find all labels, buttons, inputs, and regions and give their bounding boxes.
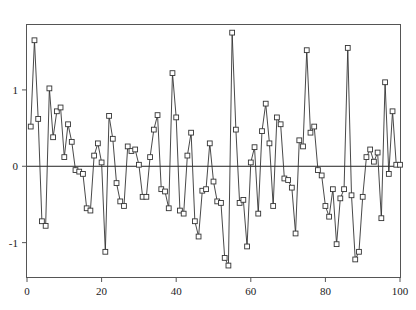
data-point-marker <box>207 141 212 146</box>
data-point-marker <box>148 155 153 160</box>
x-tick-label: 20 <box>96 285 108 297</box>
data-point-marker <box>371 159 376 164</box>
x-tick-label: 80 <box>320 285 332 297</box>
data-series-line <box>31 33 400 266</box>
data-point-marker <box>364 155 369 160</box>
data-point-marker <box>360 194 365 199</box>
data-point-marker <box>137 162 142 167</box>
data-point-marker <box>256 211 261 216</box>
y-tick-label: -1 <box>9 237 18 249</box>
y-tick-label: 1 <box>13 84 19 96</box>
plot-frame <box>27 25 401 278</box>
data-point-marker <box>43 223 48 228</box>
data-point-marker <box>185 153 190 158</box>
data-point-marker <box>144 194 149 199</box>
data-point-marker <box>166 206 171 211</box>
data-point-marker <box>95 141 100 146</box>
data-point-marker <box>28 124 33 129</box>
data-point-marker <box>196 234 201 239</box>
data-point-marker <box>349 193 354 198</box>
data-point-marker <box>107 113 112 118</box>
data-point-marker <box>308 130 313 135</box>
data-point-marker <box>181 211 186 216</box>
data-point-marker <box>122 204 127 209</box>
data-point-marker <box>353 257 358 262</box>
data-point-marker <box>51 135 56 140</box>
data-point-markers <box>28 30 402 268</box>
data-point-marker <box>155 113 160 118</box>
data-point-marker <box>62 155 67 160</box>
data-point-marker <box>230 30 235 35</box>
data-point-marker <box>330 187 335 192</box>
data-point-marker <box>248 160 253 165</box>
data-point-marker <box>342 187 347 192</box>
data-point-marker <box>263 101 268 106</box>
data-point-marker <box>297 138 302 143</box>
data-point-marker <box>368 147 373 152</box>
data-point-marker <box>375 150 380 155</box>
data-point-marker <box>233 127 238 132</box>
data-point-marker <box>204 187 209 192</box>
data-point-marker <box>110 136 115 141</box>
data-point-marker <box>151 127 156 132</box>
x-tick-label: 0 <box>24 285 30 297</box>
data-point-marker <box>241 197 246 202</box>
data-point-marker <box>304 48 309 53</box>
data-point-marker <box>260 129 265 134</box>
y-axis-tick-labels: 10-1 <box>9 84 19 249</box>
x-axis-tick-labels: 020406080100 <box>24 285 409 297</box>
data-point-marker <box>327 214 332 219</box>
data-point-marker <box>334 242 339 247</box>
data-point-marker <box>286 178 291 183</box>
data-point-marker <box>103 249 108 254</box>
data-point-marker <box>252 145 257 150</box>
data-point-marker <box>163 189 168 194</box>
data-point-marker <box>114 181 119 186</box>
data-point-marker <box>133 147 138 152</box>
x-tick-label: 40 <box>171 285 183 297</box>
data-point-marker <box>289 185 294 190</box>
data-point-marker <box>271 204 276 209</box>
data-point-marker <box>88 208 93 213</box>
data-point-marker <box>32 38 37 43</box>
data-point-marker <box>174 115 179 120</box>
y-tick-label: 0 <box>13 160 19 172</box>
data-point-marker <box>357 249 362 254</box>
data-point-marker <box>47 86 52 91</box>
data-point-marker <box>211 179 216 184</box>
chart-figure: 020406080100 10-1 <box>0 0 416 310</box>
x-tick-label: 60 <box>245 285 257 297</box>
data-point-marker <box>319 173 324 178</box>
data-point-marker <box>222 256 227 261</box>
data-point-marker <box>219 201 224 206</box>
data-point-marker <box>301 144 306 149</box>
data-point-marker <box>379 216 384 221</box>
data-point-marker <box>92 153 97 158</box>
data-point-marker <box>312 124 317 129</box>
data-point-marker <box>293 231 298 236</box>
data-point-marker <box>99 160 104 165</box>
data-point-marker <box>345 46 350 51</box>
data-point-marker <box>267 141 272 146</box>
data-point-marker <box>245 244 250 249</box>
data-point-marker <box>40 219 45 224</box>
data-point-marker <box>192 219 197 224</box>
data-point-marker <box>278 122 283 127</box>
data-point-marker <box>323 204 328 209</box>
data-point-marker <box>58 105 63 110</box>
data-point-marker <box>275 115 280 120</box>
data-point-marker <box>398 162 403 167</box>
data-point-marker <box>118 199 123 204</box>
data-point-marker <box>386 172 391 177</box>
data-point-marker <box>66 122 71 127</box>
x-tick-label: 100 <box>392 285 409 297</box>
data-point-marker <box>81 172 86 177</box>
data-point-marker <box>170 71 175 76</box>
series-plot: 020406080100 10-1 <box>0 0 416 310</box>
data-point-marker <box>69 139 74 144</box>
data-point-marker <box>226 263 231 268</box>
data-point-marker <box>36 117 41 122</box>
data-point-marker <box>189 130 194 135</box>
data-point-marker <box>338 196 343 201</box>
data-point-marker <box>316 168 321 173</box>
